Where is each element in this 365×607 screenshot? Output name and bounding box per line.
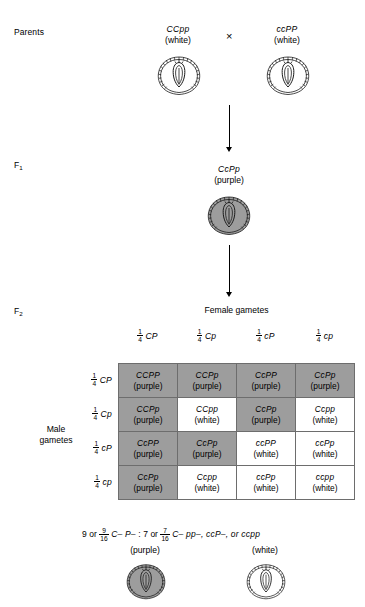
- punnett-cell-genotype: ccPp: [296, 438, 354, 449]
- punnett-cell-Ccpp: Ccpp(white): [178, 466, 237, 500]
- fraction-numerator: 1: [92, 406, 98, 414]
- fraction-denominator: 4: [94, 482, 100, 489]
- f1-caption: CcPp (purple): [187, 164, 271, 186]
- fraction-denominator: 4: [137, 336, 143, 343]
- white-fraction-denominator: 16: [160, 535, 169, 542]
- purple-or: or: [89, 529, 97, 540]
- cross-symbol-text: ×: [226, 30, 232, 42]
- punnett-cell-CCPp: CCPp(purple): [119, 398, 178, 432]
- fraction-numerator: 1: [93, 440, 99, 448]
- male-gamete-header-Cp: 14Cp: [84, 397, 116, 431]
- female-gamete-header-Cp: 14Cp: [177, 328, 236, 344]
- quarter-fraction: 14: [256, 328, 262, 344]
- punnett-row: CCPp(purple)CCpp(white)CcPp(purple)Ccpp(…: [119, 398, 355, 432]
- punnett-cell-ccPp: ccPp(white): [237, 466, 296, 500]
- f1-phenotype: (purple): [214, 175, 244, 185]
- punnett-cell-phenotype: (purple): [119, 483, 177, 494]
- female-gamete-header-row: 14CP14Cp14cP14cp: [118, 328, 355, 344]
- quarter-fraction: 14: [92, 406, 98, 422]
- fraction-denominator: 4: [256, 336, 262, 343]
- punnett-row: CcPP(purple)CcPp(purple)ccPP(white)ccPp(…: [119, 432, 355, 466]
- parent-right-kernel: [264, 54, 312, 98]
- male-gamete-label: cp: [103, 477, 112, 487]
- purple-count: 9: [82, 529, 87, 540]
- quarter-fraction: 14: [316, 328, 322, 344]
- punnett-cell-genotype: CcPp: [178, 438, 236, 449]
- punnett-cell-phenotype: (white): [237, 483, 295, 494]
- fraction-numerator: 1: [256, 328, 262, 336]
- punnett-cell-ccPp: ccPp(white): [296, 432, 355, 466]
- male-gamete-header-CP: 14CP: [84, 363, 116, 397]
- punnett-cell-CCPP: CCPP(purple): [119, 364, 178, 398]
- punnett-square-grid: CCPP(purple)CCPp(purple)CcPP(purple)CcPp…: [118, 363, 355, 500]
- quarter-fraction: 14: [91, 372, 97, 388]
- punnett-cell-genotype: ccPp: [237, 472, 295, 483]
- male-gamete-label: Cp: [101, 409, 112, 419]
- punnett-cell-phenotype: (purple): [119, 449, 177, 460]
- summary-purple-phenotype: (purple): [105, 545, 185, 555]
- punnett-cell-phenotype: (purple): [237, 415, 295, 426]
- punnett-cell-genotype: CCPp: [178, 370, 236, 381]
- f2-generation-label: F2: [14, 306, 23, 316]
- male-gamete-header-column: 14CP14Cp14cP14cp: [84, 363, 116, 499]
- fraction-denominator: 4: [91, 380, 97, 387]
- parent-left-kernel: [155, 54, 203, 98]
- punnett-cell-phenotype: (white): [296, 415, 354, 426]
- punnett-cell-CCPp: CCPp(purple): [178, 364, 237, 398]
- f1-kernel: [205, 194, 253, 238]
- white-fraction: 7 16: [160, 527, 169, 543]
- summary-white-phenotype-text: (white): [252, 545, 278, 555]
- punnett-cell-genotype: CCPP: [119, 370, 177, 381]
- purple-fraction-denominator: 16: [99, 535, 108, 542]
- ratio-summary: 9 or 9 16 C– P– : 7 or 7 16 C– pp–, ccP–…: [82, 527, 260, 543]
- parent-right-genotype: ccPP: [277, 24, 298, 34]
- female-gametes-axis-title: Female gametes: [118, 305, 355, 315]
- punnett-cell-CcPp: CcPp(purple): [178, 432, 237, 466]
- punnett-cell-CCpp: CCpp(white): [178, 398, 237, 432]
- female-gamete-label: Cp: [205, 331, 216, 341]
- summary-purple-phenotype-text: (purple): [130, 545, 160, 555]
- male-gametes-axis-title: Male gametes: [28, 424, 84, 445]
- punnett-cell-phenotype: (purple): [178, 449, 236, 460]
- quarter-fraction: 14: [137, 328, 143, 344]
- f1-generation-label: F1: [14, 160, 23, 170]
- punnett-cell-genotype: ccpp: [296, 472, 354, 483]
- male-gametes-title-line2: gametes: [40, 435, 73, 445]
- cross-multiply-icon: ×: [226, 31, 232, 42]
- arrow-parents-to-f1-line: [229, 105, 230, 148]
- flower-cross-section-icon: [205, 194, 253, 238]
- flower-cross-section-icon: [264, 54, 312, 98]
- punnett-cell-CcPp: CcPp(purple): [119, 466, 178, 500]
- fraction-denominator: 4: [316, 336, 322, 343]
- f2-label-sub: 2: [19, 310, 23, 317]
- fraction-denominator: 4: [93, 448, 99, 455]
- ratio-separator: :: [138, 529, 140, 540]
- parents-label-text: Parents: [14, 27, 44, 37]
- arrow-f1-to-f2-head: [226, 292, 232, 297]
- female-gamete-label: CP: [145, 331, 157, 341]
- punnett-row: CcPp(purple)Ccpp(white)ccPp(white)ccpp(w…: [119, 466, 355, 500]
- quarter-fraction: 14: [94, 474, 100, 490]
- purple-fraction: 9 16: [99, 527, 108, 543]
- parent-left-phenotype: (white): [165, 35, 191, 45]
- parents-generation-label: Parents: [14, 27, 44, 37]
- punnett-cell-ccpp: ccpp(white): [296, 466, 355, 500]
- punnett-cell-phenotype: (white): [178, 483, 236, 494]
- male-gamete-label: cP: [102, 443, 112, 453]
- purple-genotypes: C– P–: [111, 529, 136, 540]
- female-gamete-header-cp: 14cp: [295, 328, 354, 344]
- f1-genotype: CcPp: [218, 164, 240, 174]
- punnett-cell-Ccpp: Ccpp(white): [296, 398, 355, 432]
- female-gamete-label: cP: [264, 331, 274, 341]
- punnett-cell-genotype: CCpp: [178, 404, 236, 415]
- female-gamete-header-CP: 14CP: [118, 328, 177, 344]
- white-count: 7: [143, 529, 148, 540]
- punnett-cell-phenotype: (purple): [178, 381, 236, 392]
- punnett-cell-CcPP: CcPP(purple): [237, 364, 296, 398]
- punnett-cell-genotype: CcPP: [237, 370, 295, 381]
- punnett-cell-phenotype: (white): [296, 483, 354, 494]
- punnett-cell-ccPP: ccPP(white): [237, 432, 296, 466]
- female-gamete-label: cp: [324, 331, 333, 341]
- white-or: or: [150, 529, 158, 540]
- punnett-cell-genotype: CcPP: [119, 438, 177, 449]
